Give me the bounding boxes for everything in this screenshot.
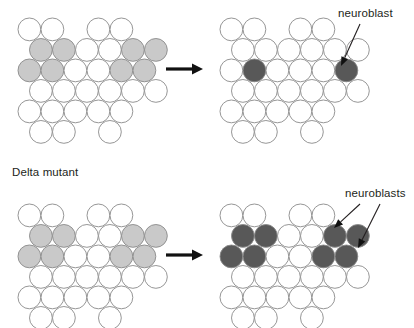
cell-white	[18, 100, 41, 123]
cell-white	[289, 18, 312, 41]
neuroblast-label: neuroblast	[338, 7, 393, 19]
cell-light	[30, 225, 53, 248]
cell-white	[18, 286, 41, 309]
cell-white	[266, 286, 289, 309]
cell-light	[133, 245, 156, 268]
cell-white	[347, 266, 370, 289]
cell-dark	[243, 245, 266, 268]
cell-white	[41, 204, 64, 227]
cell-white	[243, 286, 266, 309]
cell-white	[347, 39, 370, 62]
cell-white	[289, 204, 312, 227]
cell-white	[99, 225, 122, 248]
cell-white	[255, 120, 278, 143]
cell-white	[312, 100, 335, 123]
cell-light	[41, 59, 64, 82]
panel-delta-before	[18, 204, 167, 328]
cell-white	[99, 120, 122, 143]
cell-white	[232, 307, 255, 328]
cell-white	[64, 286, 87, 309]
cell-white	[110, 204, 133, 227]
cell-white	[232, 39, 255, 62]
cell-white	[99, 266, 122, 289]
cell-white	[278, 39, 301, 62]
cell-white	[87, 59, 110, 82]
cell-dark	[347, 225, 370, 248]
cell-white	[64, 245, 87, 268]
cell-white	[301, 307, 324, 328]
cell-white	[278, 80, 301, 103]
leader-shaft	[362, 204, 380, 240]
cell-white	[76, 39, 99, 62]
cell-light	[145, 225, 168, 248]
transition-arrow-bottom	[166, 249, 203, 260]
cell-dark	[255, 225, 278, 248]
cell-white	[243, 204, 266, 227]
cell-white	[87, 286, 110, 309]
cell-light	[110, 59, 133, 82]
cell-white	[30, 307, 53, 328]
cell-light	[121, 39, 144, 62]
cell-white	[64, 59, 87, 82]
panel-delta-after	[220, 204, 369, 328]
cell-white	[53, 307, 76, 328]
cell-light	[133, 59, 156, 82]
cell-white	[53, 120, 76, 143]
cell-white	[347, 80, 370, 103]
cell-light	[18, 59, 41, 82]
leader-shaft	[341, 204, 360, 222]
cell-white	[220, 286, 243, 309]
cell-white	[312, 59, 335, 82]
cell-white	[312, 204, 335, 227]
cell-white	[41, 18, 64, 41]
cell-dark	[324, 225, 347, 248]
arrow-head	[192, 249, 203, 260]
cell-white	[30, 266, 53, 289]
cell-light	[145, 39, 168, 62]
arrow-head	[192, 63, 203, 74]
cell-white	[289, 59, 312, 82]
cell-white	[324, 266, 347, 289]
cell-white	[121, 80, 144, 103]
cell-white	[76, 266, 99, 289]
cell-light	[53, 39, 76, 62]
cell-white	[312, 286, 335, 309]
cell-white	[53, 266, 76, 289]
cell-white	[232, 120, 255, 143]
cell-white	[41, 100, 64, 123]
cell-white	[255, 266, 278, 289]
cell-white	[324, 80, 347, 103]
panel-wildtype-after	[220, 18, 369, 143]
cell-white	[30, 120, 53, 143]
transition-arrow-top	[166, 63, 203, 74]
cell-white	[220, 18, 243, 41]
delta-mutant-label: Delta mutant	[12, 166, 78, 178]
cell-white	[110, 18, 133, 41]
cell-white	[87, 245, 110, 268]
cell-white	[255, 39, 278, 62]
cell-white	[278, 266, 301, 289]
cell-lattice-diagram	[0, 0, 414, 328]
cell-white	[220, 204, 243, 227]
cell-white	[30, 80, 53, 103]
cell-white	[301, 225, 324, 248]
cell-white	[232, 266, 255, 289]
cell-white	[145, 266, 168, 289]
cell-white	[99, 39, 122, 62]
cell-light	[121, 225, 144, 248]
panel-wildtype-before	[18, 18, 167, 143]
cell-white	[220, 59, 243, 82]
cell-white	[76, 80, 99, 103]
lateral-inhibition-figure: Delta mutantneuroblastneuroblasts	[0, 0, 414, 328]
cell-light	[30, 39, 53, 62]
cell-white	[255, 80, 278, 103]
cell-white	[53, 80, 76, 103]
cell-white	[289, 245, 312, 268]
cell-white	[266, 245, 289, 268]
cell-white	[289, 100, 312, 123]
cell-white	[99, 80, 122, 103]
cell-white	[99, 307, 122, 328]
cell-dark	[312, 245, 335, 268]
cell-white	[301, 39, 324, 62]
cell-white	[301, 266, 324, 289]
